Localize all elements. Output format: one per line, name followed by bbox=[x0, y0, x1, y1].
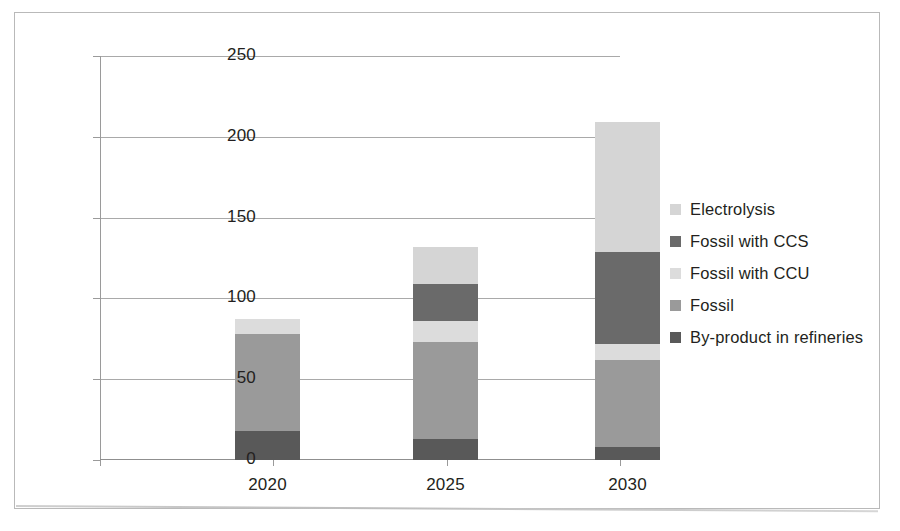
y-axis-tick bbox=[93, 218, 100, 219]
bar-stack[interactable] bbox=[413, 247, 478, 460]
y-axis-tick bbox=[93, 460, 100, 461]
x-axis-tick-label: 2020 bbox=[208, 475, 328, 495]
bar-stack[interactable] bbox=[595, 122, 660, 460]
y-axis-tick-label: 200 bbox=[196, 126, 256, 146]
y-axis-tick bbox=[93, 379, 100, 380]
bar-segment[interactable] bbox=[595, 360, 660, 447]
bar-segment[interactable] bbox=[595, 344, 660, 360]
legend-item-label: Electrolysis bbox=[690, 200, 775, 219]
x-axis-tick bbox=[447, 460, 448, 466]
legend-swatch-icon bbox=[670, 236, 681, 247]
legend-item-label: Fossil with CCU bbox=[690, 264, 810, 283]
cropped-caption-sliver bbox=[6, 522, 336, 531]
chart-legend: ElectrolysisFossil with CCSFossil with C… bbox=[670, 193, 900, 353]
y-axis-tick-label: 150 bbox=[196, 207, 256, 227]
legend-item[interactable]: By-product in refineries bbox=[670, 321, 900, 353]
bar-segment[interactable] bbox=[413, 342, 478, 439]
bar-segment[interactable] bbox=[235, 319, 300, 334]
y-axis-tick-label: 50 bbox=[196, 368, 256, 388]
bar-segment[interactable] bbox=[413, 439, 478, 460]
bar-segment[interactable] bbox=[595, 252, 660, 344]
legend-swatch-icon bbox=[670, 268, 681, 279]
gridline bbox=[100, 56, 620, 57]
y-axis-tick-label: 100 bbox=[196, 287, 256, 307]
gridline bbox=[100, 218, 620, 219]
y-axis-tick bbox=[93, 298, 100, 299]
legend-swatch-icon bbox=[670, 300, 681, 311]
bar-stack[interactable] bbox=[235, 319, 300, 460]
legend-item[interactable]: Electrolysis bbox=[670, 193, 900, 225]
chart-frame: 050100150200250 202020252030 Electrolysi… bbox=[14, 12, 880, 509]
legend-swatch-icon bbox=[670, 332, 681, 343]
bar-segment[interactable] bbox=[413, 284, 478, 321]
y-axis-line bbox=[100, 56, 101, 460]
legend-item[interactable]: Fossil with CCS bbox=[670, 225, 900, 257]
y-axis-tick-label: 250 bbox=[196, 45, 256, 65]
x-axis-tick bbox=[100, 460, 101, 466]
bar-segment[interactable] bbox=[413, 321, 478, 342]
plot-area bbox=[100, 56, 620, 460]
legend-item[interactable]: Fossil with CCU bbox=[670, 257, 900, 289]
bar-segment[interactable] bbox=[595, 122, 660, 251]
legend-item[interactable]: Fossil bbox=[670, 289, 900, 321]
y-axis-tick-label: 0 bbox=[196, 449, 256, 469]
legend-item-label: Fossil with CCS bbox=[690, 232, 809, 251]
legend-item-label: By-product in refineries bbox=[690, 328, 863, 347]
x-axis-tick-label: 2030 bbox=[568, 475, 688, 495]
x-axis-tick-label: 2025 bbox=[386, 475, 506, 495]
y-axis-tick bbox=[93, 137, 100, 138]
legend-swatch-icon bbox=[670, 204, 681, 215]
gridline bbox=[100, 298, 620, 299]
x-axis-tick bbox=[620, 460, 621, 466]
x-axis-tick bbox=[273, 460, 274, 466]
y-axis-tick bbox=[93, 56, 100, 57]
bar-segment[interactable] bbox=[413, 247, 478, 284]
gridline bbox=[100, 379, 620, 380]
gridline bbox=[100, 137, 620, 138]
bar-segment[interactable] bbox=[595, 447, 660, 460]
legend-item-label: Fossil bbox=[690, 296, 734, 315]
x-axis-line bbox=[100, 459, 620, 460]
